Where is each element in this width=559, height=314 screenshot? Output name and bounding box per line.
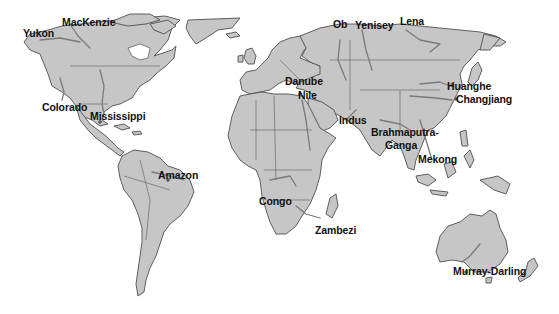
river-label-ob: Ob xyxy=(333,19,347,30)
greenland xyxy=(186,18,240,44)
river-label-yenisey: Yenisey xyxy=(355,20,393,31)
river-label-mississippi: Mississippi xyxy=(90,111,146,122)
river-label-amazon: Amazon xyxy=(158,170,198,181)
river-label-ganga: Ganga xyxy=(385,140,417,151)
river-label-danube: Danube xyxy=(285,76,323,87)
river-label-congo: Congo xyxy=(259,196,292,207)
australia xyxy=(436,210,508,272)
river-label-murray-darling: Murray-Darling xyxy=(453,266,526,277)
river-label-brahmaputra: Brahmaputra- xyxy=(371,127,439,138)
river-label-mackenzie: MacKenzie xyxy=(62,17,115,28)
river-label-lena: Lena xyxy=(400,16,424,27)
river-label-yukon: Yukon xyxy=(23,28,54,39)
river-label-colorado: Colorado xyxy=(42,102,87,113)
madagascar xyxy=(326,194,338,218)
river-label-nile: Nile xyxy=(298,90,317,101)
river-label-huanghe: Huanghe xyxy=(447,81,491,92)
river-label-changjiang: Changjiang xyxy=(456,94,512,105)
river-label-indus: Indus xyxy=(339,115,367,126)
river-label-zambezi: Zambezi xyxy=(315,225,356,236)
river-label-mekong: Mekong xyxy=(418,154,457,165)
